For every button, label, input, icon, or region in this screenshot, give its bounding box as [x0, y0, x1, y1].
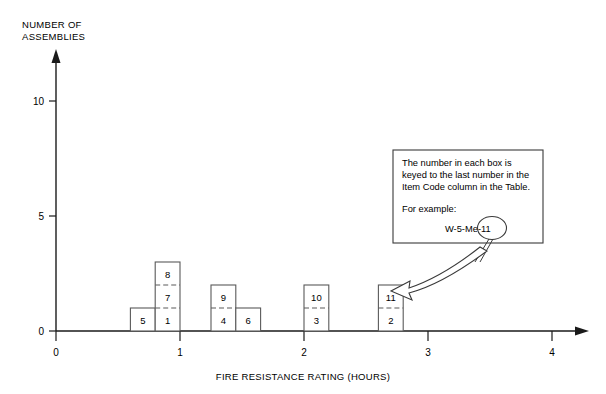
x-axis-arrowhead	[575, 327, 589, 336]
x-axis-title: FIRE RESISTANCE RATING (HOURS)	[216, 371, 390, 382]
y-tick-label-5: 5	[38, 211, 44, 222]
bar-group-4[interactable]: 3 10	[304, 285, 329, 331]
callout-line-3: Item Code column in the Table.	[402, 182, 530, 192]
callout-line-2: keyed to the last number in the	[402, 170, 529, 180]
x-tick-label-0: 0	[53, 347, 59, 358]
callout-line-1: The number in each box is	[402, 158, 512, 168]
bar-group-1[interactable]: 1 7 8	[155, 262, 180, 331]
y-tick-label-10: 10	[33, 96, 45, 107]
y-axis-title-line2: ASSEMBLIES	[22, 31, 85, 42]
bar-box-label: 4	[221, 315, 226, 326]
bar-box-label: 10	[311, 292, 322, 303]
bar-group-2[interactable]: 4 9	[211, 285, 236, 331]
y-axis-arrowhead	[52, 49, 61, 63]
callout-example-code: W-5-Me-11	[445, 224, 491, 234]
bar-box-label: 8	[165, 269, 170, 280]
bar-group-0[interactable]: 5	[130, 308, 155, 331]
bar-box-label: 11	[386, 292, 396, 303]
callout-line-4: For example:	[402, 204, 456, 214]
bar-box-label: 3	[314, 315, 319, 326]
callout-arrow-icon	[391, 247, 487, 300]
x-tick-label-3: 3	[425, 347, 431, 358]
bar-group-3[interactable]: 6	[236, 308, 261, 331]
chart-canvas: NUMBER OF ASSEMBLIES 10 5 0 0 1 2 3 4 FI…	[0, 0, 606, 394]
bar-box-label: 6	[246, 315, 251, 326]
bar-box-label: 5	[140, 315, 145, 326]
y-axis-title-line1: NUMBER OF	[22, 19, 82, 30]
x-tick-label-1: 1	[177, 347, 183, 358]
fire-resistance-rating-chart: NUMBER OF ASSEMBLIES 10 5 0 0 1 2 3 4 FI…	[0, 0, 606, 394]
x-tick-label-2: 2	[301, 347, 307, 358]
bar-box-label: 9	[221, 292, 226, 303]
bar-box-label: 1	[165, 315, 170, 326]
y-tick-label-0: 0	[38, 326, 44, 337]
bar-box-label: 7	[165, 292, 170, 303]
x-tick-label-4: 4	[549, 347, 555, 358]
bar-box-label: 2	[388, 315, 393, 326]
